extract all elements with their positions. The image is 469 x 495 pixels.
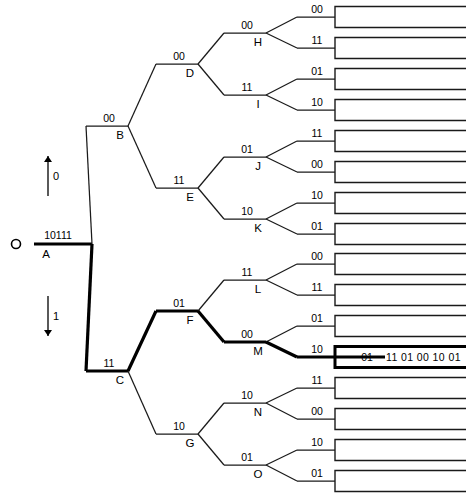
- code-label-H: 00: [241, 19, 253, 31]
- tree-diagram: 10111A0100B11C00D11E01F10G00H11I01J10K11…: [0, 0, 469, 495]
- root-code-label: 10111: [44, 229, 72, 241]
- leaf-box-14: [335, 440, 466, 461]
- edge-to-G: [128, 371, 156, 434]
- edge-to-N: [198, 403, 224, 434]
- node-id-D: D: [186, 67, 194, 79]
- edge-to-O: [198, 434, 224, 465]
- edge-to-leaf-9: [266, 280, 297, 295]
- root-terminal-icon: [12, 240, 21, 249]
- output-text: 11 01 00 10 01: [386, 351, 461, 363]
- edge-to-leaf-8: [266, 264, 297, 280]
- leaf-box-15: [335, 471, 466, 492]
- leaf-box-1: [335, 38, 466, 59]
- edge-to-M: [198, 311, 224, 342]
- code-label-M: 00: [241, 328, 253, 340]
- leaf-code-label-9: 11: [312, 281, 323, 293]
- leaf-box-2: [335, 69, 466, 90]
- leaf-box-13: [335, 409, 466, 430]
- edge-to-D: [128, 64, 156, 126]
- edge-to-leaf-1: [266, 33, 297, 48]
- node-id-K: K: [254, 222, 262, 234]
- leaf-box-6: [335, 193, 466, 214]
- edge-to-E: [128, 126, 156, 188]
- edge-to-leaf-0: [266, 17, 297, 33]
- code-label-N: 10: [241, 389, 253, 401]
- diagram-canvas: 10111A0100B11C00D11E01F10G00H11I01J10K11…: [0, 0, 469, 495]
- code-label-D: 00: [173, 50, 185, 62]
- leaf-box-7: [335, 224, 466, 245]
- node-id-M: M: [253, 345, 263, 357]
- leaf-code-label-15: 01: [311, 467, 323, 479]
- node-id-N: N: [254, 406, 262, 418]
- tree-edges: [34, 17, 385, 481]
- edge-to-B: [86, 126, 92, 244]
- node-id-L: L: [255, 283, 262, 295]
- arrow-head-1: [44, 330, 52, 336]
- edge-to-J: [198, 157, 224, 188]
- node-id-J: J: [255, 160, 261, 172]
- edge-to-leaf-15: [266, 465, 297, 481]
- edge-to-leaf-10: [266, 326, 297, 342]
- leaf-box-10: [335, 316, 466, 337]
- code-label-B: 00: [103, 112, 115, 124]
- node-id-F: F: [186, 314, 193, 326]
- code-label-K: 10: [241, 205, 253, 217]
- edge-to-H: [198, 33, 224, 64]
- edge-to-leaf-5: [266, 157, 297, 172]
- code-label-O: 01: [241, 451, 253, 463]
- leaf-box-3: [335, 100, 466, 121]
- code-label-L: 11: [242, 266, 253, 278]
- node-id-H: H: [254, 36, 262, 48]
- leaf-code-label-13: 00: [311, 405, 323, 417]
- code-label-G: 10: [173, 420, 185, 432]
- leaf-code-label-6: 10: [311, 189, 323, 201]
- node-id-I: I: [256, 98, 259, 110]
- leaf-box-5: [335, 162, 466, 183]
- leaf-code-label-12: 11: [312, 374, 323, 386]
- code-label-J: 01: [241, 143, 253, 155]
- leaf-code-label-1: 11: [312, 34, 323, 46]
- arrow-label-0: 0: [53, 170, 59, 182]
- code-label-I: 11: [242, 81, 253, 93]
- edge-to-leaf-2: [266, 79, 297, 95]
- edge-to-leaf-11: [266, 342, 297, 357]
- leaf-box-8: [335, 254, 466, 275]
- leaf-code-label-11: 10: [311, 343, 323, 355]
- leaf-code-label-0: 00: [311, 3, 323, 15]
- node-id-B: B: [116, 129, 124, 141]
- edge-to-leaf-3: [266, 95, 297, 110]
- code-label-F: 01: [173, 297, 185, 309]
- highlight-box-value: 01: [361, 351, 373, 363]
- edge-to-leaf-6: [266, 203, 297, 219]
- leaf-box-12: [335, 378, 466, 399]
- leaf-code-label-14: 10: [311, 436, 323, 448]
- code-label-E: 11: [174, 174, 185, 186]
- edge-to-F: [128, 311, 156, 371]
- edge-to-leaf-7: [266, 219, 297, 234]
- edge-to-I: [198, 64, 224, 95]
- edge-to-L: [198, 280, 224, 311]
- arrow-head-0: [44, 156, 52, 162]
- code-label-C: 11: [104, 357, 115, 369]
- leaf-box-9: [335, 285, 466, 306]
- edge-to-leaf-12: [266, 388, 297, 403]
- leaf-box-0: [335, 7, 466, 28]
- node-id-G: G: [186, 437, 195, 449]
- edge-to-K: [198, 188, 224, 219]
- leaf-code-label-3: 10: [311, 96, 323, 108]
- edge-to-C: [86, 244, 92, 371]
- leaf-code-label-8: 00: [311, 250, 323, 262]
- root-id-label: A: [42, 248, 50, 260]
- leaf-box-4: [335, 131, 466, 152]
- leaf-code-label-10: 01: [311, 312, 323, 324]
- leaf-code-label-7: 01: [311, 220, 323, 232]
- leaf-code-label-4: 11: [312, 127, 323, 139]
- edge-to-leaf-14: [266, 450, 297, 465]
- edge-to-leaf-4: [266, 141, 297, 157]
- arrow-label-1: 1: [53, 310, 59, 322]
- leaf-code-label-2: 01: [311, 65, 323, 77]
- leaf-code-label-5: 00: [311, 158, 323, 170]
- node-id-E: E: [186, 191, 194, 203]
- edge-to-leaf-13: [266, 403, 297, 419]
- leaf-boxes: [12, 7, 467, 492]
